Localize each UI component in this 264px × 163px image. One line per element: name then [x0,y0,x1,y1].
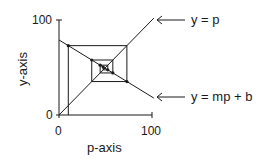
iteration-dot [106,68,109,71]
y-tick-label-100: 100 [32,14,52,26]
cobweb-path [68,46,127,115]
identity-equation-label: y = p [191,13,220,26]
plot-lines [59,18,154,115]
iteration-dot [67,44,70,47]
x-tick-label-0: 0 [55,125,62,137]
iteration-dot [99,64,102,67]
iteration-dot [125,80,128,83]
iteration-dot [111,71,114,74]
x-axis-title: p-axis [87,141,122,154]
linear-map-equation-label: y = mp + b [191,90,252,103]
x-tick-label-100: 100 [141,125,161,137]
identity-line [59,18,154,115]
iteration-dot [90,58,93,61]
y-tick-label-0: 0 [46,109,53,121]
y-axis-title: y-axis [16,52,29,86]
iteration-dot [102,65,105,68]
arrows [157,16,185,101]
